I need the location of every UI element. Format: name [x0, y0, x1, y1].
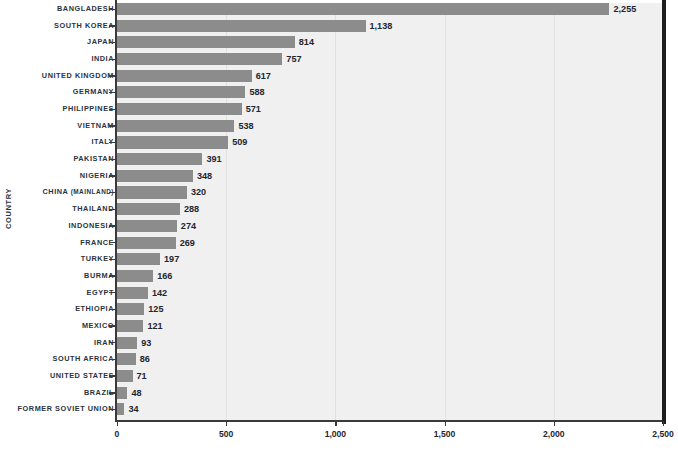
y-axis-tick — [109, 259, 115, 260]
bar — [117, 186, 187, 198]
bar-value-label: 288 — [184, 203, 199, 215]
bar — [117, 20, 366, 32]
x-axis-tick-label: 2,000 — [543, 429, 565, 439]
bar-value-label: 1,138 — [370, 20, 393, 32]
bar-value-label: 617 — [256, 70, 271, 82]
bar-chart: COUNTRY BANGLADESH2,255SOUTH KOREA1,138J… — [0, 0, 678, 450]
bar-row: PHILIPPINES571 — [0, 103, 678, 120]
bar-row: TURKEY197 — [0, 253, 678, 270]
bar-value-label: 814 — [299, 36, 314, 48]
y-axis-tick — [109, 125, 115, 126]
y-axis-tick — [109, 342, 115, 343]
bar-value-label: 93 — [141, 337, 151, 349]
bar-value-label: 348 — [197, 170, 212, 182]
bar-value-label: 34 — [128, 403, 138, 415]
category-label: PHILIPPINES — [63, 103, 114, 115]
bar — [117, 86, 245, 98]
bar-row: GERMANY588 — [0, 86, 678, 103]
y-axis-tick — [109, 59, 115, 60]
y-axis-tick — [109, 275, 115, 276]
bar — [117, 153, 202, 165]
x-axis-tick — [445, 421, 446, 426]
category-label: CHINA (MAINLAND) — [43, 186, 114, 198]
y-axis-tick — [109, 209, 115, 210]
bar-value-label: 86 — [140, 353, 150, 365]
bar-row: CHINA (MAINLAND)320 — [0, 186, 678, 203]
category-label: SOUTH KOREA — [54, 20, 114, 32]
bar — [117, 403, 124, 415]
y-axis-tick — [109, 359, 115, 360]
bar-row: ITALY509 — [0, 136, 678, 153]
category-label: SOUTH AFRICA — [53, 353, 114, 365]
bar-row: IRAN93 — [0, 337, 678, 354]
bar — [117, 253, 160, 265]
bar — [117, 237, 176, 249]
y-axis-tick — [109, 409, 115, 410]
category-label: FORMER SOVIET UNION — [18, 403, 114, 415]
bar-row: BANGLADESH2,255 — [0, 3, 678, 20]
bar — [117, 353, 136, 365]
bar — [117, 337, 137, 349]
bar-value-label: 121 — [147, 320, 162, 332]
category-label: UNITED STATES — [50, 370, 114, 382]
y-axis-tick — [109, 242, 115, 243]
bar-row: PAKISTAN391 — [0, 153, 678, 170]
bar — [117, 36, 295, 48]
bar-row: INDIA757 — [0, 53, 678, 70]
y-axis-tick — [109, 9, 115, 10]
bar — [117, 220, 177, 232]
bar-value-label: 48 — [131, 387, 141, 399]
y-axis-tick — [109, 309, 115, 310]
bar-row: FRANCE269 — [0, 237, 678, 254]
y-axis-tick — [109, 109, 115, 110]
bar-row: JAPAN814 — [0, 36, 678, 53]
category-label: THAILAND — [72, 203, 114, 215]
y-axis-tick — [109, 159, 115, 160]
bar-value-label: 757 — [286, 53, 301, 65]
bar-value-label: 391 — [206, 153, 221, 165]
bar-value-label: 142 — [152, 287, 167, 299]
bar-row: SOUTH KOREA1,138 — [0, 20, 678, 37]
x-axis-tick-label: 500 — [219, 429, 233, 439]
bar-value-label: 274 — [181, 220, 196, 232]
bar-value-label: 320 — [191, 186, 206, 198]
category-label: UNITED KINGDOM — [42, 70, 114, 82]
bar-value-label: 71 — [137, 370, 147, 382]
bar-row: BURMA166 — [0, 270, 678, 287]
bar-row: SOUTH AFRICA86 — [0, 353, 678, 370]
bar-value-label: 166 — [157, 270, 172, 282]
y-axis-tick — [109, 92, 115, 93]
bar — [117, 3, 609, 15]
y-axis-tick — [109, 42, 115, 43]
category-label: GERMANY — [73, 86, 114, 98]
y-axis-tick — [109, 375, 115, 376]
bar-row: ETHIOPIA125 — [0, 303, 678, 320]
bar — [117, 170, 193, 182]
bar-row: UNITED STATES71 — [0, 370, 678, 387]
bar — [117, 387, 127, 399]
y-axis-tick — [109, 392, 115, 393]
category-label: INDONESIA — [69, 220, 115, 232]
x-axis-tick-label: 0 — [115, 429, 120, 439]
bar-row: UNITED KINGDOM617 — [0, 70, 678, 87]
y-axis-tick — [109, 225, 115, 226]
bar — [117, 120, 234, 132]
bar-value-label: 125 — [148, 303, 163, 315]
bar-value-label: 509 — [232, 136, 247, 148]
x-axis-tick — [663, 421, 664, 426]
bar-value-label: 538 — [238, 120, 253, 132]
category-label: PAKISTAN — [73, 153, 114, 165]
bar — [117, 303, 144, 315]
bar-value-label: 571 — [246, 103, 261, 115]
bar-row: EGYPT142 — [0, 287, 678, 304]
bar-row: BRAZIL48 — [0, 387, 678, 404]
bar-value-label: 197 — [164, 253, 179, 265]
bar — [117, 70, 252, 82]
bar — [117, 136, 228, 148]
x-axis-tick — [335, 421, 336, 426]
y-axis-tick — [109, 75, 115, 76]
x-axis-tick — [226, 421, 227, 426]
x-axis-tick-label: 2,500 — [652, 429, 674, 439]
y-axis-tick — [109, 25, 115, 26]
bar-value-label: 269 — [180, 237, 195, 249]
